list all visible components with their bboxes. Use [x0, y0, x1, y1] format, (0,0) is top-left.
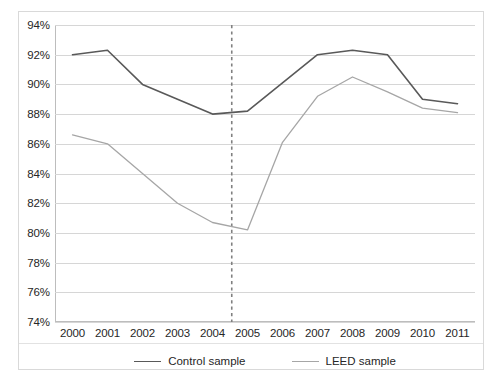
series-line-control-sample	[73, 50, 458, 114]
series-layer	[55, 25, 475, 322]
y-axis: 74%76%78%80%82%84%86%88%90%92%94%	[0, 25, 50, 322]
x-tick-label-2011: 2011	[445, 327, 469, 339]
gridline-74	[55, 322, 475, 323]
x-tick-label-2003: 2003	[165, 327, 190, 339]
chart-legend: Control sampleLEED sample	[55, 352, 475, 370]
y-tick-label: 92%	[4, 49, 50, 61]
x-tick-label-2004: 2004	[200, 327, 225, 339]
legend-entry-leed-sample[interactable]: LEED sample	[292, 355, 396, 367]
series-line-leed-sample	[73, 77, 458, 230]
y-tick-label: 84%	[4, 168, 50, 180]
y-tick-label: 94%	[4, 19, 50, 31]
x-tick-label-2001: 2001	[95, 327, 120, 339]
x-tick-label-2008: 2008	[340, 327, 365, 339]
x-tick-label-2005: 2005	[235, 327, 260, 339]
legend-line-swatch-icon	[134, 361, 161, 362]
y-tick-label: 80%	[4, 227, 50, 239]
legend-label: LEED sample	[326, 355, 396, 367]
x-tick-label-2000: 2000	[60, 327, 85, 339]
x-tick-label-2010: 2010	[410, 327, 435, 339]
y-tick-label: 82%	[4, 197, 50, 209]
chart-figure: 74%76%78%80%82%84%86%88%90%92%94% 200020…	[0, 0, 501, 385]
y-tick-label: 74%	[4, 316, 50, 328]
y-tick-label: 76%	[4, 286, 50, 298]
y-tick-label: 90%	[4, 78, 50, 90]
x-tick-label-2006: 2006	[270, 327, 295, 339]
legend-divider	[19, 343, 483, 344]
x-tick-label-2002: 2002	[130, 327, 155, 339]
y-tick-label: 78%	[4, 257, 50, 269]
y-tick-label: 88%	[4, 108, 50, 120]
x-tick-label-2009: 2009	[375, 327, 400, 339]
legend-line-swatch-icon	[292, 361, 319, 362]
x-tick-label-2007: 2007	[305, 327, 330, 339]
y-tick-label: 86%	[4, 138, 50, 150]
legend-entry-control-sample[interactable]: Control sample	[134, 355, 245, 367]
legend-label: Control sample	[168, 355, 245, 367]
plot-area	[55, 25, 475, 322]
